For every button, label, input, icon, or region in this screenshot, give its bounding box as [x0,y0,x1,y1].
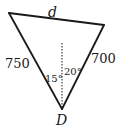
label-right-side-700: 700 [91,51,116,66]
triangle-diagram: d 750 700 15° 20° D [0,0,116,133]
label-right-angle-20: 20° [64,66,82,77]
label-left-side-750: 750 [5,56,30,71]
label-left-angle-15: 15° [45,73,63,84]
label-top-side-d: d [48,4,57,20]
label-vertex-D: D [55,112,67,128]
